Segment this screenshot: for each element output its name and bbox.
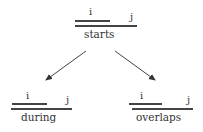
node-overlaps: i j overlaps [0,0,203,132]
relation-name: overlaps [136,112,181,123]
interval-j-label: j [187,95,190,105]
interval-i-bar [129,103,162,105]
interval-j-bar [132,108,193,110]
interval-i-label: i [140,91,143,101]
